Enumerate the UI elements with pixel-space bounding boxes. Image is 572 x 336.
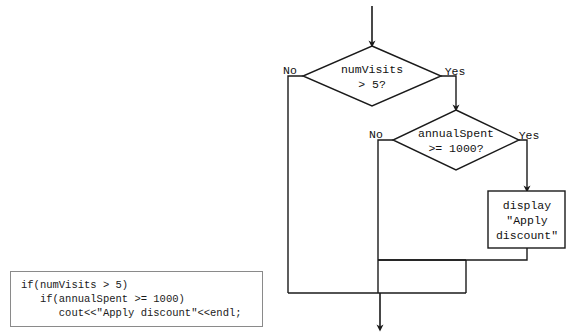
code-snippet-panel: if(numVisits > 5) if(annualSpent >= 1000… [10, 271, 263, 327]
edge-numvisits-yes [441, 76, 456, 108]
flowchart-diagram: numVisits > 5? No Yes annualSpent >= 100… [0, 0, 572, 336]
process-display-line3: discount" [496, 229, 558, 242]
decision-numvisits-line1: numVisits [341, 63, 403, 76]
decision-annualspent-line2: >= 1000? [428, 142, 483, 155]
decision-annualspent-no-label: No [369, 128, 383, 141]
decision-numvisits-no-label: No [283, 64, 297, 77]
edge-display-exit [378, 248, 527, 260]
decision-annualspent-line1: annualSpent [418, 127, 494, 140]
process-display-line1: display [503, 199, 551, 212]
edge-annualspent-yes [519, 140, 527, 189]
edge-numvisits-no [288, 76, 303, 293]
edge-annualspent-no [378, 140, 393, 260]
process-display-line2: "Apply [506, 214, 548, 227]
decision-numvisits-line2: > 5? [358, 78, 386, 91]
code-snippet-text: if(numVisits > 5) if(annualSpent >= 1000… [21, 278, 262, 320]
